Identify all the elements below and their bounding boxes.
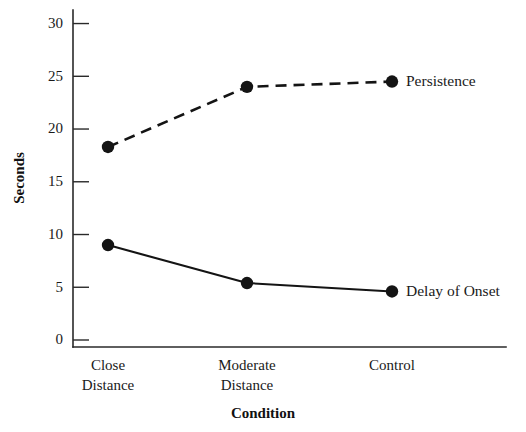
series-inline-label: Persistence [406, 72, 476, 89]
y-tick-label: 10 [48, 226, 63, 242]
chart-figure: 051015202530 Seconds PersistenceDelay of… [0, 0, 526, 432]
x-category-label: Distance [221, 377, 274, 393]
data-point-marker [386, 285, 398, 297]
line-chart-svg: 051015202530 Seconds PersistenceDelay of… [0, 0, 526, 432]
x-category-label: Close [91, 357, 126, 373]
x-category-label: Moderate [218, 357, 276, 373]
y-axis-ticks: 051015202530 [48, 15, 89, 347]
data-point-marker [241, 81, 253, 93]
data-point-marker [102, 239, 114, 251]
x-category-label: Distance [82, 377, 135, 393]
series-labels: PersistenceDelay of Onset [406, 72, 501, 299]
x-axis-title: Condition [231, 405, 296, 421]
x-axis-category-labels: CloseDistanceModerateDistanceControl [82, 357, 415, 393]
data-point-marker [386, 75, 398, 87]
y-tick-label: 20 [48, 120, 63, 136]
y-tick-label: 5 [56, 279, 64, 295]
y-tick-label: 25 [48, 68, 63, 84]
series-inline-label: Delay of Onset [406, 282, 501, 299]
y-axis-title: Seconds [11, 152, 27, 204]
series-group [102, 75, 398, 297]
y-tick-label: 30 [48, 15, 63, 31]
y-tick-label: 15 [48, 173, 63, 189]
y-tick-label: 0 [56, 331, 64, 347]
data-point-marker [102, 141, 114, 153]
x-category-label: Control [369, 357, 415, 373]
data-point-marker [241, 277, 253, 289]
